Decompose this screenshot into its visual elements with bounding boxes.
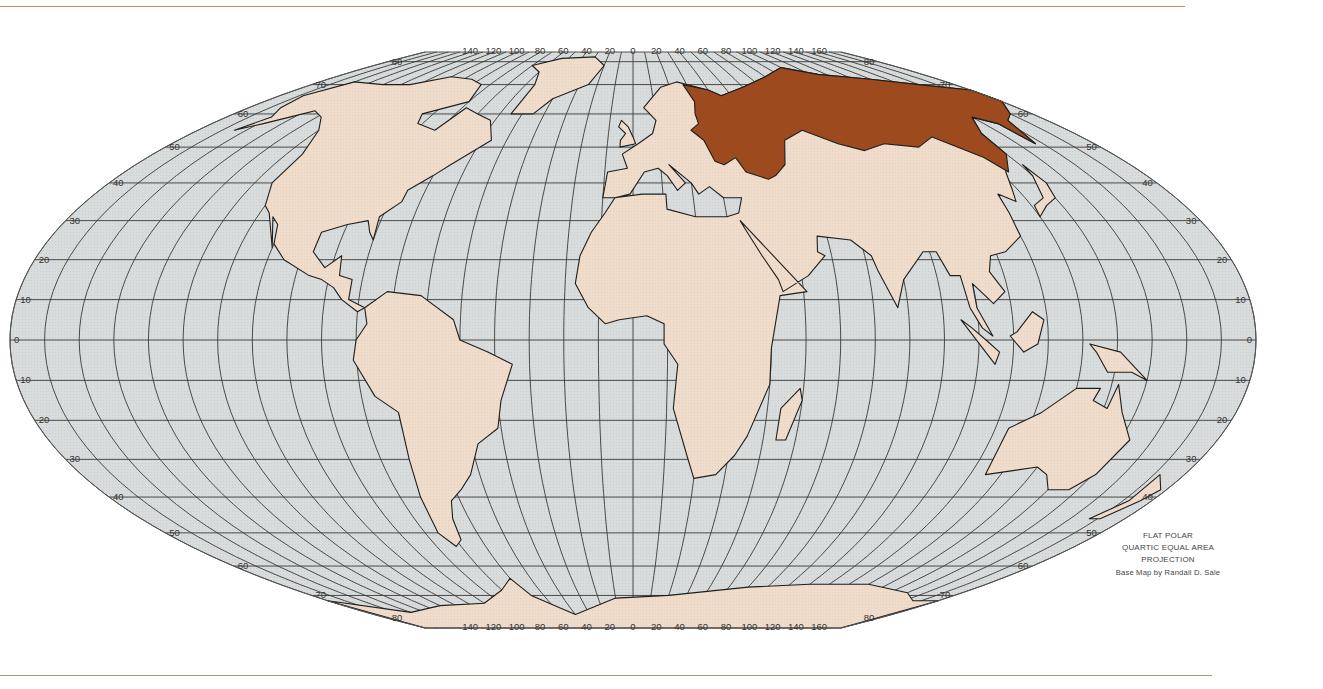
longitude-label-bottom: 80 [721, 621, 732, 632]
projection-title-line-1: FLAT POLAR [1094, 530, 1242, 542]
latitude-label-left: 40 [113, 177, 124, 188]
latitude-label-left: 40 [113, 491, 124, 502]
longitude-label-top: 80 [535, 45, 546, 56]
longitude-label-top: 40 [581, 45, 592, 56]
longitude-label-top: 100 [509, 45, 525, 56]
latitude-label-right: 10 [1235, 374, 1246, 385]
latitude-label-right: 80 [864, 56, 875, 67]
longitude-label-top: 140 [788, 45, 804, 56]
longitude-label-bottom: 40 [581, 621, 592, 632]
latitude-label-right: 30 [1186, 215, 1197, 226]
latitude-label-right: 70 [940, 589, 951, 600]
latitude-label-left: 50 [169, 527, 180, 538]
latitude-label-right: 80 [864, 612, 875, 623]
longitude-label-top: 120 [485, 45, 501, 56]
world-map: 1401401201201001008080606040402020002020… [0, 0, 1323, 689]
latitude-label-right: 0 [1247, 334, 1252, 345]
longitude-label-top: 100 [741, 45, 757, 56]
longitude-label-bottom: 60 [558, 621, 569, 632]
longitude-label-top: 60 [558, 45, 569, 56]
projection-credit: FLAT POLAR QUARTIC EQUAL AREA PROJECTION… [1094, 530, 1242, 579]
latitude-label-right: 20 [1217, 254, 1228, 265]
latitude-label-right: 60 [1018, 108, 1029, 119]
latitude-label-left: 70 [316, 79, 327, 90]
longitude-label-top: 80 [721, 45, 732, 56]
latitude-label-right: 20 [1217, 414, 1228, 425]
longitude-label-bottom: 120 [485, 621, 501, 632]
longitude-label-bottom: 140 [788, 621, 804, 632]
longitude-label-bottom: 20 [604, 621, 615, 632]
longitude-label-bottom: 0 [630, 621, 635, 632]
longitude-label-top: 60 [698, 45, 709, 56]
latitude-label-left: 60 [238, 108, 249, 119]
longitude-label-top: 160 [811, 45, 827, 56]
longitude-label-bottom: 160 [811, 621, 827, 632]
longitude-label-bottom: 40 [674, 621, 685, 632]
projection-title-line-2: QUARTIC EQUAL AREA [1094, 542, 1242, 554]
latitude-label-right: 60 [1018, 560, 1029, 571]
latitude-label-right: 70 [940, 79, 951, 90]
longitude-label-bottom: 120 [765, 621, 781, 632]
longitude-label-bottom: 140 [462, 621, 478, 632]
latitude-label-left: 10 [20, 294, 31, 305]
longitude-label-top: 40 [674, 45, 685, 56]
base-map-credit: Base Map by Randall D. Sale [1094, 567, 1242, 579]
latitude-label-left: 0 [14, 334, 19, 345]
latitude-label-right: 40 [1142, 177, 1153, 188]
latitude-label-left: 80 [392, 56, 403, 67]
latitude-label-left: 60 [238, 560, 249, 571]
latitude-label-left: 30 [70, 453, 81, 464]
projection-title-line-3: PROJECTION [1094, 554, 1242, 566]
longitude-label-bottom: 100 [741, 621, 757, 632]
latitude-label-left: 80 [392, 612, 403, 623]
longitude-label-bottom: 60 [698, 621, 709, 632]
latitude-label-left: 20 [39, 254, 50, 265]
latitude-label-right: 30 [1186, 453, 1197, 464]
latitude-label-right: 40 [1142, 491, 1153, 502]
latitude-label-left: 10 [20, 374, 31, 385]
longitude-label-top: 0 [630, 45, 635, 56]
latitude-label-left: 20 [39, 414, 50, 425]
latitude-label-left: 70 [316, 589, 327, 600]
longitude-label-bottom: 80 [535, 621, 546, 632]
longitude-label-bottom: 20 [651, 621, 662, 632]
longitude-label-top: 20 [604, 45, 615, 56]
latitude-label-right: 10 [1235, 294, 1246, 305]
longitude-label-top: 140 [462, 45, 478, 56]
longitude-label-top: 120 [765, 45, 781, 56]
latitude-label-right: 50 [1086, 141, 1097, 152]
longitude-label-bottom: 100 [509, 621, 525, 632]
latitude-label-left: 50 [169, 141, 180, 152]
longitude-label-top: 20 [651, 45, 662, 56]
latitude-label-left: 30 [70, 215, 81, 226]
